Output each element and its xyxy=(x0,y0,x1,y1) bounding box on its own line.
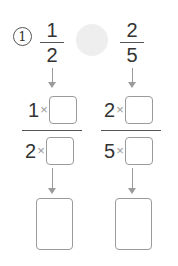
comparison-answer-circle[interactable] xyxy=(76,24,108,56)
left-fraction: 1 2 xyxy=(40,20,64,65)
left-numerator-base: 1 xyxy=(28,98,39,122)
left-arrow-down-icon xyxy=(48,68,56,88)
right-numerator-input-box[interactable] xyxy=(125,96,153,124)
right-fraction-denominator: 5 xyxy=(120,45,144,65)
times-icon: × xyxy=(37,139,45,163)
left-fraction-numerator: 1 xyxy=(40,20,64,40)
times-icon: × xyxy=(116,98,124,122)
right-fraction: 2 5 xyxy=(120,20,144,65)
right-denominator-input-box[interactable] xyxy=(125,137,153,165)
right-conversion: 2 × 5 × xyxy=(101,95,161,166)
left-denominator-input-box[interactable] xyxy=(46,137,74,165)
right-numerator-base: 2 xyxy=(104,98,115,122)
right-fraction-bar-large xyxy=(101,130,161,131)
right-denominator-base: 5 xyxy=(104,139,115,163)
right-result-box[interactable] xyxy=(115,198,152,250)
right-fraction-numerator: 2 xyxy=(120,20,144,40)
left-conversion: 1 × 2 × xyxy=(22,95,82,166)
left-fraction-bar xyxy=(40,42,64,43)
times-icon: × xyxy=(40,98,48,122)
right-arrow-down-icon-2 xyxy=(128,168,136,194)
left-fraction-bar-large xyxy=(22,130,82,131)
problem-number-badge: 1 xyxy=(13,27,32,46)
times-icon: × xyxy=(116,139,124,163)
left-arrow-down-icon-2 xyxy=(48,168,56,194)
left-result-box[interactable] xyxy=(36,198,73,250)
right-arrow-down-icon xyxy=(128,68,136,88)
left-denominator-base: 2 xyxy=(25,139,36,163)
right-fraction-bar xyxy=(120,42,144,43)
left-fraction-denominator: 2 xyxy=(40,45,64,65)
left-numerator-input-box[interactable] xyxy=(49,96,77,124)
